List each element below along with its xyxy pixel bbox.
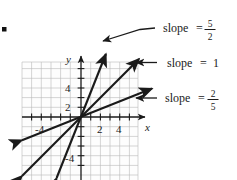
annotation-value-1: 1 [213, 56, 219, 70]
annotation-slope-1: slope = 1 [167, 56, 219, 70]
annotation-numerator-2-5: 2 [211, 89, 216, 99]
y-tick-label-2: 2 [65, 101, 71, 113]
y-tick-label-neg4: -4 [65, 152, 75, 164]
annotation-equals-2-5: = [198, 91, 205, 105]
annotation-denominator-5-2: 2 [208, 32, 213, 42]
annotation-label-slope-1: slope [167, 56, 192, 70]
leader-line-slope-5-2 [103, 28, 155, 41]
x-axis-label: x [144, 121, 150, 133]
y-axis-label: y [65, 53, 71, 65]
annotation-label-slope-2-5: slope [165, 91, 190, 105]
x-tick-label-2: 2 [97, 123, 103, 135]
y-tick-label-4: 4 [65, 82, 71, 94]
annotation-slope-2-5: slope = 2 5 [165, 89, 219, 112]
annotation-equals-5-2: = [196, 21, 203, 35]
slope-graph-figure: x y -4 2 4 4 2 -4 slope = 5 2 slope = 1 … [0, 0, 237, 180]
x-tick-label-4: 4 [116, 123, 122, 135]
figure-container: x y -4 2 4 4 2 -4 slope = 5 2 slope = 1 … [0, 0, 237, 180]
annotation-numerator-5-2: 5 [208, 19, 213, 29]
annotation-slope-5-2: slope = 5 2 [163, 19, 216, 42]
x-tick-label-neg4: -4 [35, 123, 45, 135]
annotation-denominator-2-5: 5 [211, 102, 216, 112]
annotation-equals-1: = [200, 56, 207, 70]
bullet-marker [2, 27, 7, 32]
annotation-label-slope-5-2: slope [163, 21, 188, 35]
